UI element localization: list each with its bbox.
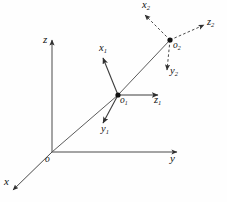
z2-axis-label: z2 — [207, 17, 214, 28]
connector-o1-to-o2 — [118, 40, 170, 95]
figure-canvas — [0, 0, 227, 202]
coordinate-frame-figure: z y x o x1 y1 z1 o1 x2 y2 z2 o2 — [0, 0, 227, 202]
y2-axis-label: y2 — [170, 66, 178, 77]
x-axis-label: x — [4, 176, 9, 187]
x1-axis — [103, 58, 118, 95]
x1-axis-label: x1 — [99, 43, 107, 54]
world-origin-label: o — [45, 155, 50, 165]
x2-axis — [145, 15, 170, 40]
y1-axis-label: y1 — [101, 124, 109, 135]
z1-axis-label: z1 — [154, 95, 161, 106]
y-axis-label: y — [170, 153, 175, 164]
z2-axis — [170, 25, 204, 40]
frame2-origin-label: o2 — [173, 41, 181, 51]
frame1-origin-label: o1 — [120, 96, 128, 106]
y1-axis — [103, 95, 118, 123]
frame2-origin-dot — [167, 37, 172, 42]
x2-axis-label: x2 — [142, 0, 150, 11]
z-axis-label: z — [43, 34, 47, 45]
